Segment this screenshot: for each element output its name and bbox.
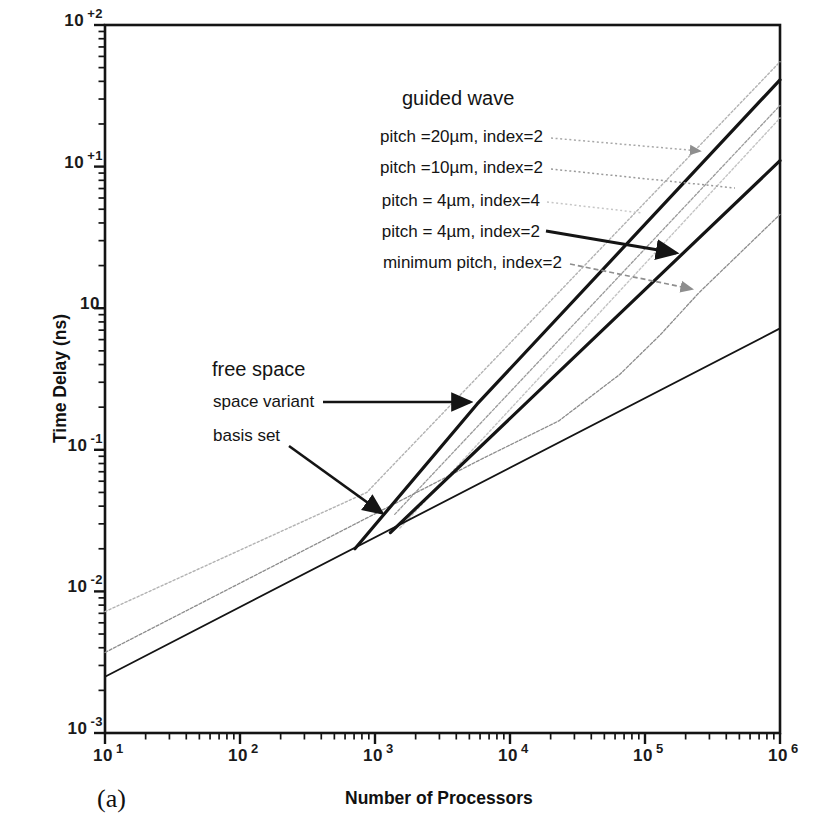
label-space-variant: space variant	[213, 392, 314, 412]
x-tick-label-6: 106	[768, 746, 799, 767]
y-axis-title: Time Delay (ns)	[50, 297, 71, 461]
leader-pitch-20um	[551, 138, 700, 151]
y-tick-label-+1: 10+1	[64, 153, 103, 174]
x-tick-label-3: 103	[363, 746, 394, 767]
free-space-group-title: free space	[212, 357, 305, 381]
x-tick-label-2: 102	[228, 746, 259, 767]
guided-wave-group-title: guided wave	[402, 86, 514, 110]
series-line-4	[105, 328, 780, 676]
x-tick-label-5: 105	[633, 746, 664, 767]
y-tick-label--2: 10-2	[68, 577, 103, 598]
series-line-6	[355, 80, 780, 549]
x-tick-label-1: 101	[93, 746, 124, 767]
label-minimum-pitch: minimum pitch, index=2	[383, 253, 562, 273]
label-pitch-20um: pitch =20µm, index=2	[380, 127, 543, 147]
label-pitch-4um-index2: pitch = 4µm, index=2	[382, 222, 540, 242]
panel-label: (a)	[97, 784, 126, 814]
leader-pitch-4um-index4	[547, 202, 643, 213]
label-basis-set: basis set	[213, 426, 280, 446]
series-line-2	[400, 118, 780, 528]
x-axis-title: Number of Processors	[345, 788, 533, 809]
series-line-5	[390, 161, 780, 533]
leader-pitch-4um-index2	[546, 231, 676, 253]
leader-basis-set	[289, 446, 382, 513]
y-tick-label--3: 10-3	[68, 719, 103, 740]
y-tick-label--1: 10-1	[68, 436, 103, 457]
chart-plot	[0, 0, 819, 839]
figure-page: { "figure": { "panel_label": "(a)" }, "a…	[0, 0, 819, 839]
leader-pitch-10um	[551, 169, 735, 188]
label-pitch-10um: pitch =10µm, index=2	[380, 158, 543, 178]
y-tick-label-+2: 10+2	[64, 11, 103, 32]
series-lines	[105, 62, 780, 677]
y-tick-label-0: 10	[80, 294, 103, 315]
x-tick-label-4: 104	[498, 746, 529, 767]
series-line-3	[105, 214, 780, 652]
label-pitch-4um-index4: pitch = 4µm, index=4	[382, 191, 540, 211]
